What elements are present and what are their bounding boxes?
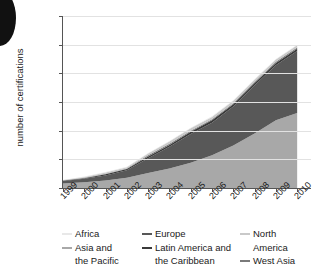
gridline xyxy=(63,159,311,160)
legend-swatch-icon xyxy=(240,233,250,235)
legend-label: Europe xyxy=(155,228,186,240)
legend-label: Africa xyxy=(75,228,99,240)
chart-legend: AfricaAsia andthe PacificEuropeLatin Ame… xyxy=(62,228,320,274)
legend-swatch-icon xyxy=(62,247,72,249)
y-tick-mark xyxy=(59,16,63,17)
gridline xyxy=(63,102,311,103)
y-tick-mark xyxy=(59,159,63,160)
legend-label-continuation: America xyxy=(240,242,320,254)
chart-page: number of certifications 050100150200250… xyxy=(0,0,325,277)
legend-label-continuation: the Pacific xyxy=(62,255,142,267)
legend-item[interactable]: West Asia xyxy=(240,255,320,267)
gridline xyxy=(63,16,311,17)
y-tick-mark xyxy=(59,73,63,74)
legend-swatch-icon xyxy=(240,260,250,262)
legend-column: NorthAmericaWest Asia xyxy=(240,228,320,274)
legend-column: AfricaAsia andthe Pacific xyxy=(62,228,142,274)
legend-label: Asia and xyxy=(75,242,112,254)
x-tick-label: 1999 xyxy=(58,180,79,201)
legend-label: North xyxy=(253,228,276,240)
legend-item[interactable]: Asia and xyxy=(62,242,142,254)
y-tick-mark xyxy=(59,45,63,46)
legend-column: EuropeLatin America andthe Caribbean xyxy=(142,228,240,274)
legend-swatch-icon xyxy=(62,233,72,235)
gridline xyxy=(63,45,311,46)
gridline xyxy=(63,131,311,132)
gridline xyxy=(63,73,311,74)
legend-item[interactable]: Europe xyxy=(142,228,240,240)
plot-area: 0501001502002503001999200020012002200320… xyxy=(62,16,311,189)
y-axis-label: number of certifications xyxy=(14,23,25,173)
legend-label: West Asia xyxy=(253,255,295,267)
y-tick-mark xyxy=(59,131,63,132)
legend-item[interactable]: North xyxy=(240,228,320,240)
legend-item[interactable]: Latin America and xyxy=(142,242,240,254)
legend-label: Latin America and xyxy=(155,242,231,254)
y-tick-mark xyxy=(59,102,63,103)
legend-item[interactable]: Africa xyxy=(62,228,142,240)
area-chart: number of certifications 050100150200250… xyxy=(0,0,325,220)
legend-swatch-icon xyxy=(142,233,152,235)
legend-swatch-icon xyxy=(142,247,152,249)
legend-label-continuation: the Caribbean xyxy=(142,255,240,267)
